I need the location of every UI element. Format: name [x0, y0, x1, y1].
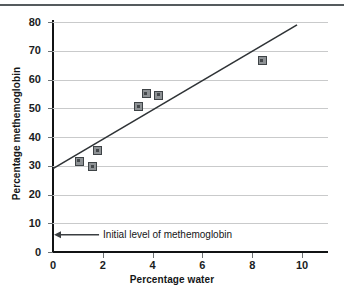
x-axis-tick	[153, 253, 154, 258]
y-axis-tick-label: 80	[19, 17, 41, 28]
y-axis-tick-label: 40	[19, 132, 41, 143]
y-axis-tick	[48, 80, 53, 81]
y-axis-tick	[48, 195, 53, 196]
data-point-marker	[142, 89, 151, 98]
y-axis-tick	[48, 223, 53, 224]
y-axis-tick	[48, 108, 53, 109]
annotation-label: Initial level of methemoglobin	[103, 229, 232, 240]
y-axis-tick-label: 50	[19, 103, 41, 114]
y-axis-tick	[48, 51, 53, 52]
y-axis-tick	[48, 22, 53, 23]
data-point-marker	[154, 91, 163, 100]
y-axis-tick-label: 10	[19, 218, 41, 229]
y-axis-tick-label: 20	[19, 189, 41, 200]
data-point-marker	[93, 146, 102, 155]
y-axis-tick-label: 0	[19, 247, 41, 258]
x-axis-tick-label: 8	[240, 260, 264, 271]
data-point-marker	[134, 102, 143, 111]
y-axis-tick	[48, 137, 53, 138]
data-point-marker	[75, 157, 84, 166]
trend-line	[53, 25, 297, 169]
data-point-marker	[258, 56, 267, 65]
x-axis-tick	[252, 253, 253, 258]
chart-figure: Percentage methemoglobin Percentage wate…	[0, 0, 344, 296]
x-axis-tick-label: 4	[141, 260, 165, 271]
annotation-arrow-head	[54, 231, 61, 238]
x-axis-title: Percentage water	[0, 274, 344, 285]
y-axis-tick-label: 30	[19, 160, 41, 171]
y-axis-tick-label: 60	[19, 74, 41, 85]
data-point-marker	[88, 162, 97, 171]
x-axis-tick	[202, 253, 203, 258]
x-axis-tick-label: 6	[190, 260, 214, 271]
y-axis-tick	[48, 166, 53, 167]
x-axis-tick-label: 2	[91, 260, 115, 271]
x-axis-tick	[103, 253, 104, 258]
x-axis-tick-label: 10	[290, 260, 314, 271]
y-axis-tick-label: 70	[19, 45, 41, 56]
y-axis-tick	[48, 252, 53, 253]
x-axis-tick	[302, 253, 303, 258]
x-axis-tick-label: 0	[41, 260, 65, 271]
